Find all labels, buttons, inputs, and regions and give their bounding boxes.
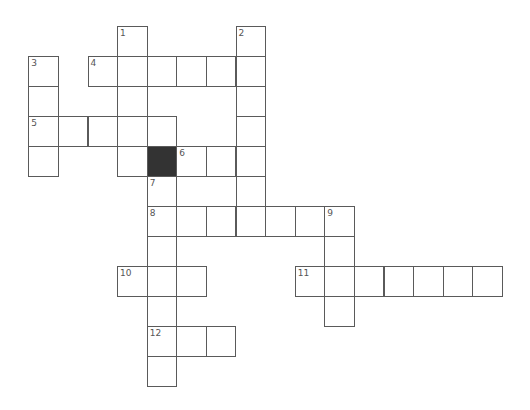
crossword-cell[interactable]: [28, 86, 59, 117]
crossword-cell[interactable]: [206, 56, 237, 87]
crossword-cell[interactable]: [324, 266, 355, 297]
clue-number: 4: [91, 58, 97, 68]
crossword-cell[interactable]: [265, 206, 296, 237]
crossword-cell[interactable]: [28, 146, 59, 177]
crossword-cell[interactable]: [176, 326, 207, 357]
clue-number: 8: [150, 208, 156, 218]
crossword-cell[interactable]: [236, 86, 267, 117]
clue-number: 11: [298, 268, 309, 278]
crossword-cell[interactable]: [206, 206, 237, 237]
clue-number: 12: [150, 328, 161, 338]
crossword-cell[interactable]: [176, 206, 207, 237]
clue-number: 3: [31, 58, 37, 68]
clue-number: 5: [31, 118, 37, 128]
crossword-cell[interactable]: 11: [295, 266, 326, 297]
crossword-cell[interactable]: [176, 266, 207, 297]
crossword-cell[interactable]: [236, 116, 267, 147]
crossword-cell[interactable]: [443, 266, 474, 297]
crossword-cell[interactable]: 4: [88, 56, 119, 87]
crossword-cell[interactable]: [117, 56, 148, 87]
crossword-cell[interactable]: 5: [28, 116, 59, 147]
crossword-cell[interactable]: [117, 86, 148, 117]
crossword-cell[interactable]: 2: [236, 26, 267, 57]
crossword-cell[interactable]: 8: [147, 206, 178, 237]
crossword-cell[interactable]: [176, 56, 207, 87]
crossword-cell[interactable]: [147, 116, 178, 147]
crossword-cell[interactable]: [147, 236, 178, 267]
crossword-cell[interactable]: 7: [147, 176, 178, 207]
crossword-cell[interactable]: [147, 356, 178, 387]
crossword-cell[interactable]: [324, 296, 355, 327]
crossword-cell[interactable]: [413, 266, 444, 297]
crossword-cell[interactable]: [236, 206, 267, 237]
clue-number: 2: [239, 28, 245, 38]
crossword-cell[interactable]: [147, 296, 178, 327]
crossword-cell[interactable]: [88, 116, 119, 147]
crossword-cell[interactable]: [117, 146, 148, 177]
black-square: [147, 146, 178, 177]
crossword-cell[interactable]: [472, 266, 503, 297]
clue-number: 9: [327, 208, 333, 218]
crossword-cell[interactable]: 3: [28, 56, 59, 87]
crossword-cell[interactable]: [384, 266, 415, 297]
crossword-cell[interactable]: [58, 116, 89, 147]
clue-number: 1: [120, 28, 126, 38]
crossword-cell[interactable]: [206, 146, 237, 177]
crossword-cell[interactable]: [324, 236, 355, 267]
clue-number: 7: [150, 178, 156, 188]
crossword-cell[interactable]: 6: [176, 146, 207, 177]
crossword-cell[interactable]: 10: [117, 266, 148, 297]
crossword-cell[interactable]: [295, 206, 326, 237]
crossword-cell[interactable]: [236, 56, 267, 87]
crossword-cell[interactable]: 1: [117, 26, 148, 57]
clue-number: 10: [120, 268, 131, 278]
crossword-cell[interactable]: 9: [324, 206, 355, 237]
crossword-cell[interactable]: [147, 56, 178, 87]
crossword-cell[interactable]: [354, 266, 385, 297]
crossword-grid: 123546781291011: [0, 0, 530, 410]
clue-number: 6: [179, 148, 185, 158]
crossword-cell[interactable]: [206, 326, 237, 357]
crossword-cell[interactable]: [236, 146, 267, 177]
crossword-cell[interactable]: [117, 116, 148, 147]
crossword-cell[interactable]: 12: [147, 326, 178, 357]
crossword-cell[interactable]: [236, 176, 267, 207]
crossword-cell[interactable]: [147, 266, 178, 297]
